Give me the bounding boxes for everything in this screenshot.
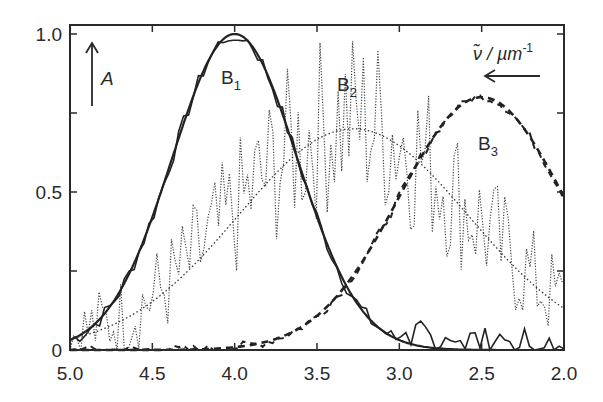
x-tick-label: 5.0 <box>57 363 83 384</box>
y-tick-label: 0 <box>51 340 62 361</box>
x-tick-label: 2.5 <box>468 363 494 384</box>
x-tick-label: 4.5 <box>139 363 165 384</box>
spectrum-chart: 5.04.54.03.53.02.52.0 00.51.0 B1 B2 B3 A… <box>0 0 603 402</box>
fit-curve-b1 <box>70 34 564 350</box>
label-b3: B3 <box>478 133 498 159</box>
x-tick-label: 2.0 <box>551 363 577 384</box>
label-b2: B2 <box>337 74 357 100</box>
x-tick-label: 3.5 <box>304 363 330 384</box>
noisy-data-layer <box>70 40 564 350</box>
ordinate-arrow-annotation: A <box>86 43 114 106</box>
x-tick-label: 3.0 <box>386 363 412 384</box>
ordinate-label: A <box>100 68 114 89</box>
x-tick-label: 4.0 <box>221 363 247 384</box>
fit-curve-b2 <box>70 129 564 339</box>
label-b1: B1 <box>221 67 241 93</box>
measured-trace-b2 <box>70 41 563 350</box>
abscissa-label: ν̃ / µm-1 <box>473 41 533 64</box>
y-tick-label: 0.5 <box>36 182 62 203</box>
fit-curves-layer <box>70 34 564 350</box>
y-axis: 00.51.0 <box>36 24 564 361</box>
y-tick-label: 1.0 <box>36 24 62 45</box>
abscissa-arrow-annotation: ν̃ / µm-1 <box>473 41 540 82</box>
measured-trace-b1 <box>70 40 564 350</box>
